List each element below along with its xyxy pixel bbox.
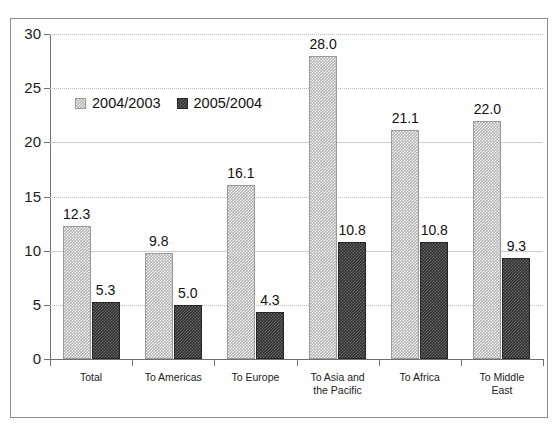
gridline-20 [50, 142, 543, 143]
y-tick-label-25: 25 [11, 80, 41, 95]
x-category-label-4: To Africa [379, 371, 461, 384]
x-tick-mark-2 [214, 359, 215, 366]
x-category-label-line: To Americas [132, 371, 214, 384]
bar-value-label-2004-2003-1: 9.8 [135, 234, 183, 248]
bar-value-label-2005-2004-1: 5.0 [164, 286, 212, 300]
x-tick-mark-3 [297, 359, 298, 366]
legend-swatch-icon-2005-2004 [177, 98, 188, 109]
bar-2004-2003-3[interactable] [309, 56, 337, 359]
x-category-label-line: To Europe [214, 371, 296, 384]
y-tick-label-15: 15 [11, 189, 41, 204]
x-category-label-1: To Americas [132, 371, 214, 384]
plot-area: 12.35.39.85.016.14.328.010.821.110.822.0… [50, 34, 543, 359]
x-category-label-5: To MiddleEast [461, 371, 543, 397]
gridline-10 [50, 251, 543, 252]
bar-2005-2004-4[interactable] [420, 242, 448, 359]
bar-2004-2003-4[interactable] [391, 130, 419, 359]
bar-value-label-2005-2004-3: 10.8 [328, 223, 376, 237]
legend-swatch-icon-2004-2003 [75, 98, 86, 109]
y-tick-label-5: 5 [11, 297, 41, 312]
x-category-label-2: To Europe [214, 371, 296, 384]
y-tick-label-0: 0 [11, 351, 41, 366]
x-category-label-line: Total [50, 371, 132, 384]
gridline-5 [50, 305, 543, 306]
x-tick-mark-1 [132, 359, 133, 366]
chart-legend: 2004/2003 2005/2004 [72, 95, 265, 112]
x-category-label-line: To Middle [461, 371, 543, 384]
x-category-label-3: To Asia andthe Pacific [297, 371, 379, 397]
bar-value-label-2004-2003-3: 28.0 [299, 37, 347, 51]
x-category-label-line: To Africa [379, 371, 461, 384]
bar-value-label-2005-2004-2: 4.3 [246, 293, 294, 307]
bar-2004-2003-1[interactable] [145, 253, 173, 359]
bar-value-label-2005-2004-4: 10.8 [410, 223, 458, 237]
legend-label-0: 2004/2003 [92, 96, 161, 111]
gridline-15 [50, 197, 543, 198]
legend-entry-0: 2004/2003 [75, 96, 161, 111]
y-tick-label-30: 30 [11, 26, 41, 41]
chart-frame: 051015202530TotalTo AmericasTo EuropeTo … [10, 18, 548, 418]
bar-value-label-2004-2003-0: 12.3 [53, 207, 101, 221]
y-tick-label-20: 20 [11, 134, 41, 149]
bar-2005-2004-5[interactable] [502, 258, 530, 359]
x-tick-mark-4 [379, 359, 380, 366]
x-category-label-line: the Pacific [297, 384, 379, 397]
x-tick-mark-0 [50, 359, 51, 366]
x-category-label-line: East [461, 384, 543, 397]
gridline-30 [50, 34, 543, 35]
cut-off-header-text [0, 0, 559, 9]
x-tick-mark-end [543, 359, 544, 366]
bar-2005-2004-0[interactable] [92, 302, 120, 359]
bar-2005-2004-3[interactable] [338, 242, 366, 359]
x-category-label-line: To Asia and [297, 371, 379, 384]
bar-value-label-2004-2003-2: 16.1 [217, 166, 265, 180]
bar-2004-2003-2[interactable] [227, 185, 255, 359]
bar-value-label-2004-2003-4: 21.1 [381, 111, 429, 125]
x-tick-mark-5 [461, 359, 462, 366]
legend-entry-1: 2005/2004 [177, 96, 263, 111]
legend-label-1: 2005/2004 [194, 96, 263, 111]
gridline-25 [50, 88, 543, 89]
bar-value-label-2004-2003-5: 22.0 [463, 102, 511, 116]
y-tick-label-10: 10 [11, 243, 41, 258]
bar-value-label-2005-2004-0: 5.3 [82, 283, 130, 297]
x-category-label-0: Total [50, 371, 132, 384]
bar-2005-2004-2[interactable] [256, 312, 284, 359]
bar-value-label-2005-2004-5: 9.3 [492, 239, 540, 253]
bar-2005-2004-1[interactable] [174, 305, 202, 359]
